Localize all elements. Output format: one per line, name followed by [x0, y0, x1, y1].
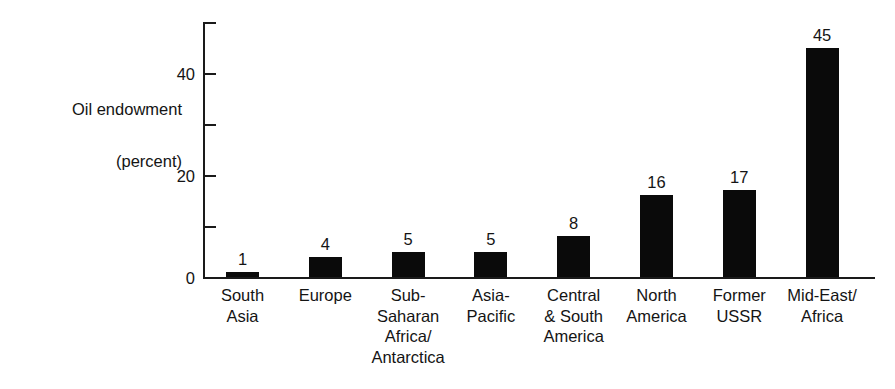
- bar-value-label: 45: [813, 26, 831, 45]
- y-tick-major: [205, 175, 216, 177]
- y-axis-title-line2: (percent): [0, 148, 182, 174]
- bar-value-label: 5: [486, 230, 495, 249]
- bar: 45: [806, 48, 839, 278]
- y-axis-line: [203, 22, 205, 279]
- x-axis-category-label: Mid-East/ Africa: [772, 285, 872, 326]
- y-tick-label-holder: 40: [203, 73, 205, 75]
- y-tick-minor: [205, 22, 216, 24]
- y-axis-title: Oil endowment (percent): [0, 70, 182, 226]
- bar-value-label: 1: [238, 250, 247, 269]
- x-axis-line: [203, 277, 875, 279]
- y-tick-label-holder: 0: [203, 277, 205, 279]
- bar-value-label: 5: [404, 230, 413, 249]
- y-tick-minor: [205, 226, 216, 228]
- bar-value-label: 16: [647, 173, 665, 192]
- bar: 16: [640, 195, 673, 277]
- bar: 5: [392, 252, 425, 278]
- y-tick-minor: [205, 124, 216, 126]
- bar: 4: [309, 257, 342, 277]
- bar-value-label: 8: [569, 214, 578, 233]
- y-tick-major: [205, 277, 216, 279]
- bar: 5: [474, 252, 507, 278]
- plot-area: 02040 14558161745: [203, 22, 875, 279]
- bar: 17: [723, 190, 756, 277]
- bar: 1: [226, 272, 259, 277]
- y-tick-label-holder: 20: [203, 175, 205, 177]
- y-axis-title-line1: Oil endowment: [72, 100, 182, 118]
- y-tick-label: 40: [177, 65, 195, 84]
- bar: 8: [557, 236, 590, 277]
- bar-chart: Oil endowment (percent) 02040 1455816174…: [0, 0, 895, 389]
- y-tick-major: [205, 73, 216, 75]
- bar-value-label: 4: [321, 235, 330, 254]
- y-tick-label: 20: [177, 167, 195, 186]
- bar-value-label: 17: [730, 168, 748, 187]
